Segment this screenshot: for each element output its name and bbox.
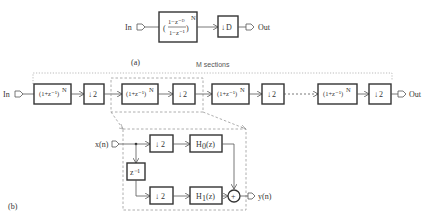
svg-text:z⁻¹: z⁻¹: [130, 168, 141, 177]
svg-text:+: +: [231, 192, 236, 201]
detail-output-port: [248, 193, 255, 199]
svg-text:N: N: [240, 86, 245, 93]
figure-b: M sections In (1+z⁻¹) N ↓ 2 (1+z⁻¹) N: [3, 61, 422, 211]
svg-text:(1+z⁻¹): (1+z⁻¹): [126, 90, 146, 98]
svg-text:(z): (z): [206, 192, 215, 201]
adder: +: [228, 190, 240, 202]
figure-label-a: (a): [131, 58, 140, 67]
detail-input-port: [112, 141, 119, 147]
stage-m-decimator: ↓ 2: [369, 84, 391, 104]
h1-filter-box: H 1 (z): [190, 187, 222, 204]
figure-a: In ( 1−z⁻ᴰ 1−z⁻¹ ) N ↓ D Out (a): [125, 12, 271, 67]
stage-1-filter: (1+z⁻¹) N: [34, 84, 71, 104]
svg-text:(1+z⁻¹): (1+z⁻¹): [217, 90, 237, 98]
cic-filter-box: ( 1−z⁻ᴰ 1−z⁻¹ ) N: [159, 12, 197, 42]
svg-text:(1+z⁻¹): (1+z⁻¹): [323, 90, 343, 98]
detail-output-label: y(n): [258, 192, 272, 201]
stage-m-filter: (1+z⁻¹) N: [318, 84, 357, 104]
svg-text:N: N: [62, 86, 67, 93]
m-sections-bracket: [33, 73, 392, 84]
input-port-b: [15, 91, 23, 97]
cic-numerator: 1−z⁻ᴰ: [168, 18, 185, 25]
stage-3-decimator: ↓ 2: [262, 84, 284, 104]
svg-text:): ): [186, 24, 189, 33]
stage-2-decimator: ↓ 2: [173, 84, 195, 104]
down-arrow-icon: ↓: [221, 23, 225, 32]
figure-label-b: (b): [8, 202, 18, 211]
stage-1-decimator: ↓ 2: [84, 84, 104, 104]
detail-input-label: x(n): [95, 140, 109, 149]
output-port-b: [398, 91, 406, 97]
detail-bottom-decimator: ↓ 2: [150, 187, 173, 204]
svg-text:N: N: [149, 86, 154, 93]
down-arrow-icon: ↓: [178, 90, 182, 99]
svg-text:(1+z⁻¹): (1+z⁻¹): [39, 90, 59, 98]
input-label-a: In: [125, 23, 132, 32]
detail-top-decimator: ↓ 2: [150, 135, 173, 152]
svg-text:N: N: [346, 86, 351, 93]
svg-text:2: 2: [379, 90, 383, 99]
svg-text:2: 2: [161, 140, 165, 149]
decimator-d-box: ↓ D: [218, 16, 238, 37]
down-arrow-icon: ↓: [88, 90, 92, 99]
sections-label: M sections: [196, 61, 230, 68]
svg-text:2: 2: [93, 90, 97, 99]
down-arrow-icon: ↓: [267, 90, 271, 99]
svg-text:(z): (z): [206, 140, 215, 149]
down-arrow-icon: ↓: [155, 192, 159, 201]
svg-text:2: 2: [183, 90, 187, 99]
cic-denominator: 1−z⁻¹: [169, 29, 185, 36]
svg-text:2: 2: [161, 192, 165, 201]
down-arrow-icon: ↓: [155, 140, 159, 149]
input-port-a: [137, 24, 145, 30]
svg-text:2: 2: [272, 90, 276, 99]
output-label-b: Out: [409, 90, 422, 99]
polyphase-cic-diagram: In ( 1−z⁻ᴰ 1−z⁻¹ ) N ↓ D Out (a) M secti…: [0, 0, 431, 224]
output-port-a: [246, 24, 254, 30]
svg-text:(: (: [163, 24, 166, 33]
output-label-a: Out: [258, 23, 271, 32]
decimation-factor: D: [226, 23, 232, 32]
stage-2-filter: (1+z⁻¹) N: [122, 84, 158, 104]
h0-filter-box: H 0 (z): [190, 135, 222, 152]
stage-3-filter: (1+z⁻¹) N: [212, 84, 249, 104]
down-arrow-icon: ↓: [374, 90, 378, 99]
delay-box: z⁻¹: [127, 163, 145, 180]
cic-exponent: N: [191, 14, 196, 21]
input-label-b: In: [3, 90, 10, 99]
